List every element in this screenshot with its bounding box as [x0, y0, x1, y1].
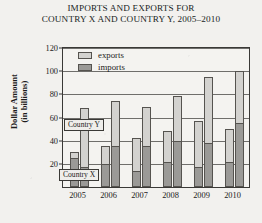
bar-country-x-imports-2007: [132, 171, 141, 187]
x-axis-tick-labels: 200520062007200820092010: [62, 191, 250, 207]
bar-group-2010: [218, 48, 249, 187]
bar-country-x-2006: [101, 146, 110, 187]
x-tick-label-2009: 2009: [193, 191, 210, 200]
bar-country-x-imports-2009: [194, 167, 203, 187]
chart-title-line-1: IMPORTS AND EXPORTS FOR: [0, 3, 262, 14]
chart-title-line-2: COUNTRY X AND COUNTRY Y, 2005–2010: [0, 14, 262, 25]
chart-figure: IMPORTS AND EXPORTS FOR COUNTRY X AND CO…: [0, 0, 262, 223]
y-tick-label-20: 20: [50, 159, 63, 168]
bar-group-2009: [187, 48, 218, 187]
bar-group-2007: [125, 48, 156, 187]
chart-legend: exports imports: [78, 50, 125, 74]
bar-country-y-2008: [173, 96, 182, 188]
bar-country-x-2008: [163, 131, 172, 187]
y-tick-label-100: 100: [45, 67, 63, 76]
x-tick-label-2007: 2007: [131, 191, 148, 200]
chart-title: IMPORTS AND EXPORTS FOR COUNTRY X AND CO…: [0, 3, 262, 25]
legend-swatch-exports-icon: [78, 52, 92, 59]
y-tick-label-120: 120: [45, 44, 63, 53]
x-tick-label-2008: 2008: [162, 191, 179, 200]
bar-country-y-2009: [204, 77, 213, 187]
x-tick-label-2005: 2005: [69, 191, 86, 200]
bar-country-x-2007: [132, 138, 141, 187]
legend-item-exports: exports: [78, 50, 125, 61]
annotation-country-y: Country Y: [64, 119, 104, 131]
bar-country-x-imports-2008: [163, 162, 172, 187]
bar-country-y-2007: [142, 107, 151, 187]
annotation-country-x: Country X: [59, 169, 99, 181]
bar-country-y-imports-2009: [204, 143, 213, 187]
bar-country-x-2010: [225, 129, 234, 187]
x-tick-label-2006: 2006: [100, 191, 117, 200]
y-tick-label-60: 60: [50, 113, 63, 122]
legend-swatch-imports-icon: [78, 64, 92, 71]
bar-country-y-2006: [111, 101, 120, 187]
bar-country-y-imports-2006: [111, 146, 120, 187]
bar-country-y-imports-2008: [173, 141, 182, 187]
bar-country-y-imports-2010: [235, 123, 244, 187]
legend-label-exports: exports: [98, 50, 124, 61]
y-tick-label-40: 40: [50, 136, 63, 145]
y-axis-label-line-2: (in billions): [20, 54, 30, 150]
y-axis-label: Dollar Amount (in billions): [10, 54, 29, 150]
bar-country-y-imports-2007: [142, 146, 151, 187]
bar-country-x-2009: [194, 121, 203, 187]
bar-group-2008: [156, 48, 187, 187]
legend-item-imports: imports: [78, 62, 125, 73]
bar-country-x-imports-2010: [225, 162, 234, 187]
legend-label-imports: imports: [98, 62, 125, 73]
bar-country-x-imports-2006: [101, 164, 110, 187]
x-tick-label-2010: 2010: [224, 191, 241, 200]
bar-country-y-2010: [235, 71, 244, 187]
y-tick-label-80: 80: [50, 90, 63, 99]
